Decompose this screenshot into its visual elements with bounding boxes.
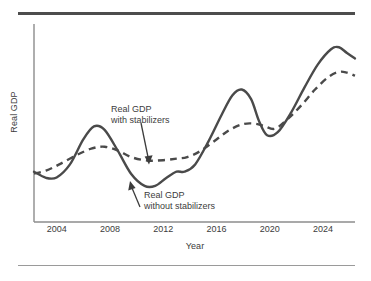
x-tick-label-2004: 2004: [37, 224, 77, 234]
y-axis-title: Real GDP: [9, 82, 19, 142]
annotation-with-stabilizers-line1: Real GDP: [111, 104, 170, 115]
x-tick-label-2024: 2024: [303, 224, 343, 234]
x-tick-label-2016: 2016: [196, 224, 236, 234]
arrow-line-with-stabilizers: [141, 123, 148, 158]
arrow-head-without-stabilizers: [128, 181, 135, 191]
annotation-with-stabilizers-line2: with stabilizers: [111, 115, 170, 126]
line-real-gdp-with-stabilizers: [34, 72, 355, 174]
x-tick-label-2020: 2020: [250, 224, 290, 234]
line-real-gdp-without-stabilizers: [34, 47, 355, 187]
figure-container: Real GDP Year 200420082012201620202024 R…: [0, 0, 371, 281]
annotation-without-stabilizers-line1: Real GDP: [144, 190, 215, 201]
annotation-without-stabilizers-line2: without stabilizers: [144, 201, 215, 212]
x-tick-label-2008: 2008: [90, 224, 130, 234]
annotation-with-stabilizers: Real GDP with stabilizers: [111, 104, 170, 126]
arrow-line-without-stabilizers: [132, 187, 140, 207]
x-axis-title: Year: [165, 241, 225, 251]
chart-canvas: [0, 0, 371, 281]
x-tick-label-2012: 2012: [143, 224, 183, 234]
data-series-group: [34, 47, 355, 187]
annotation-without-stabilizers: Real GDP without stabilizers: [144, 190, 215, 212]
